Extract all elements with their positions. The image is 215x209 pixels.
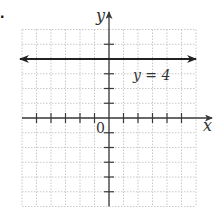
y-axis-label: y [95, 6, 106, 25]
origin-label: 0 [96, 120, 105, 136]
line-equation-label: y = 4 [132, 67, 170, 83]
axis-labels: x y 0 y = 4 [95, 6, 212, 136]
x-axis-label: x [203, 116, 212, 135]
coordinate-plane: x y 0 y = 4 [0, 0, 215, 209]
